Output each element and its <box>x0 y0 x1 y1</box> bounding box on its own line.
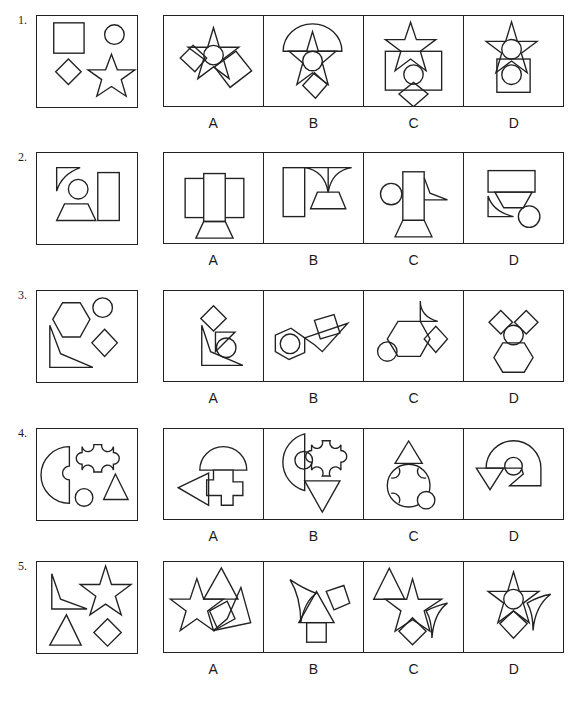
option-c[interactable] <box>364 562 464 652</box>
option-label-c: C <box>364 115 464 131</box>
triangle-shape <box>104 474 128 499</box>
option-label-a: A <box>163 115 263 131</box>
option-a[interactable] <box>164 153 264 243</box>
option-a[interactable] <box>164 562 264 652</box>
concave-quadrilateral-shape <box>52 574 87 609</box>
option-c[interactable] <box>364 291 464 381</box>
option-label-d: D <box>464 252 564 268</box>
given-shapes-figure <box>37 153 137 244</box>
option-label-c: C <box>364 390 464 406</box>
option-label-a: A <box>163 661 263 677</box>
given-shapes-figure <box>37 429 137 520</box>
option-b[interactable] <box>264 16 364 106</box>
diamond-shape <box>94 619 121 646</box>
option-c[interactable] <box>364 429 464 519</box>
option-label-c: C <box>364 528 464 544</box>
notched-cross-shape <box>76 445 119 472</box>
option-labels: A B C D <box>163 661 564 677</box>
option-labels: A B C D <box>163 528 564 544</box>
question-number: 4. <box>18 426 27 441</box>
hexagon-shape <box>53 303 90 337</box>
option-label-d: D <box>464 390 564 406</box>
option-label-b: B <box>263 390 363 406</box>
question-number: 2. <box>18 150 27 165</box>
option-c[interactable] <box>364 153 464 243</box>
option-b[interactable] <box>264 291 364 381</box>
option-d[interactable] <box>464 562 563 652</box>
trapezoid-shape <box>57 204 96 221</box>
circle-shape <box>105 25 125 45</box>
square-shape <box>54 23 84 53</box>
question-number: 3. <box>18 288 27 303</box>
star-shape <box>80 566 131 615</box>
question-number: 1. <box>18 13 27 28</box>
options-strip <box>163 290 564 382</box>
question-figure <box>36 15 138 108</box>
question-figure <box>36 152 138 245</box>
options-strip <box>163 152 564 244</box>
option-c[interactable] <box>364 16 464 106</box>
option-label-a: A <box>163 390 263 406</box>
option-label-d: D <box>464 528 564 544</box>
option-b[interactable] <box>264 153 364 243</box>
option-a[interactable] <box>164 16 264 106</box>
given-shapes-figure <box>37 562 137 653</box>
option-label-b: B <box>263 528 363 544</box>
option-label-d: D <box>464 661 564 677</box>
option-d[interactable] <box>464 153 563 243</box>
notched-semicircle-shape <box>41 447 69 504</box>
question-figure <box>36 290 138 383</box>
option-d[interactable] <box>464 429 563 519</box>
option-b[interactable] <box>264 429 364 519</box>
option-label-b: B <box>263 661 363 677</box>
circle-shape <box>75 489 93 507</box>
concave-quadrilateral-shape <box>50 325 93 367</box>
given-shapes-figure <box>37 16 137 107</box>
option-label-d: D <box>464 115 564 131</box>
given-shapes-figure <box>37 291 137 382</box>
option-labels: A B C D <box>163 252 564 268</box>
option-b[interactable] <box>264 562 364 652</box>
star-shape <box>88 54 135 96</box>
option-labels: A B C D <box>163 115 564 131</box>
option-labels: A B C D <box>163 390 564 406</box>
option-label-c: C <box>364 252 464 268</box>
options-strip <box>163 561 564 653</box>
diamond-shape <box>92 329 117 356</box>
circle-shape <box>68 179 88 199</box>
cut-off-text-line <box>0 0 580 3</box>
options-strip <box>163 428 564 520</box>
rectangle-shape <box>98 173 120 221</box>
diamond-shape <box>56 59 81 84</box>
option-d[interactable] <box>464 291 563 381</box>
option-label-b: B <box>263 252 363 268</box>
option-label-b: B <box>263 115 363 131</box>
option-label-a: A <box>163 528 263 544</box>
option-d[interactable] <box>464 16 563 106</box>
question-number: 5. <box>18 559 27 574</box>
option-a[interactable] <box>164 291 264 381</box>
option-label-c: C <box>364 661 464 677</box>
triangle-shape <box>50 615 81 645</box>
option-a[interactable] <box>164 429 264 519</box>
option-label-a: A <box>163 252 263 268</box>
question-figure <box>36 561 138 654</box>
question-figure <box>36 428 138 521</box>
circle-shape <box>93 298 113 318</box>
options-strip <box>163 15 564 107</box>
